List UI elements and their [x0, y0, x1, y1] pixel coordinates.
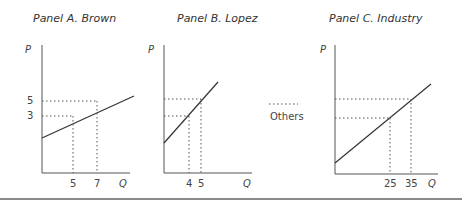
- panel-c-supply-line: [335, 84, 431, 163]
- panel-a-supply-line: [42, 96, 134, 138]
- diagram-canvas: [0, 0, 462, 204]
- panel-c-graph: [335, 45, 438, 174]
- panel-b-graph: [164, 45, 252, 173]
- panel-a-graph: [42, 45, 134, 173]
- panel-b-supply-line: [164, 82, 218, 143]
- bottom-divider: [0, 198, 462, 200]
